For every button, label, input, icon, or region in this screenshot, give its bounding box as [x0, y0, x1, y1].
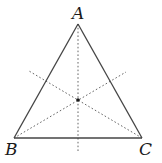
dotted-line-from-b: [14, 72, 126, 138]
vertex-label-b: B: [4, 139, 18, 159]
side-ab: [14, 24, 78, 138]
vertex-label-a: A: [70, 3, 84, 23]
centroid-point: [76, 98, 80, 102]
side-ac: [78, 24, 142, 138]
triangle-diagram: A B C: [0, 0, 162, 163]
vertex-label-c: C: [139, 139, 152, 159]
